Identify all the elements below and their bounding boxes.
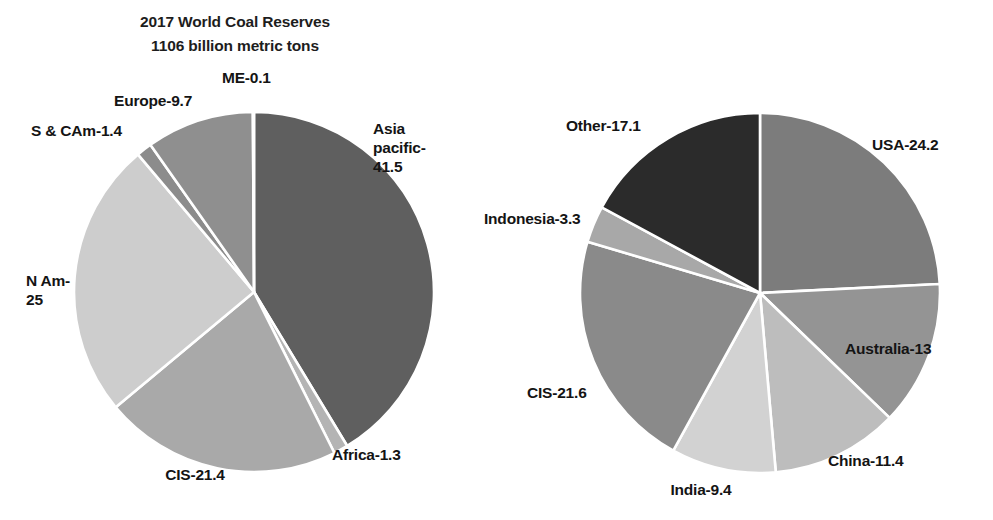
slice-label-europe: Europe-9.7 — [114, 92, 254, 111]
slice-label-other: Other-17.1 — [566, 117, 706, 136]
slice-label-cis-country: CIS-21.6 — [527, 384, 637, 403]
slice-label-asia-pacific: Asia pacific- 41.5 — [373, 120, 483, 177]
slice-label-cis-region: CIS-21.4 — [130, 466, 260, 485]
coal-reserves-figure: 2017 World Coal Reserves 1106 billion me… — [0, 0, 993, 520]
slice-label-australia: Australia-13 — [845, 340, 985, 359]
slice-label-n-am: N Am- 25 — [26, 272, 116, 310]
slice-label-s-and-cam: S & CAm-1.4 — [31, 122, 191, 141]
slice-label-india: India-9.4 — [636, 481, 766, 500]
pie-geometry — [0, 0, 993, 520]
slice-label-usa: USA-24.2 — [872, 136, 982, 155]
slice-label-africa: Africa-1.3 — [332, 446, 462, 465]
slice-label-china: China-11.4 — [828, 452, 958, 471]
pie-slice-me — [253, 112, 254, 292]
slice-label-me: ME-0.1 — [222, 69, 332, 88]
pie-right-slices — [580, 113, 940, 473]
slice-label-indonesia: Indonesia-3.3 — [484, 210, 634, 229]
